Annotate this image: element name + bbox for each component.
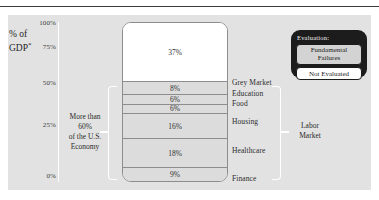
category-label-3: Housing — [232, 117, 258, 126]
labor-market-label: Labor Market — [288, 121, 332, 140]
category-label-column: Grey MarketEducationFoodHousingHealthcar… — [232, 22, 294, 182]
bar-segment-value-6: 9% — [170, 170, 180, 179]
legend-item-not-evaluated[interactable]: Not Evaluated — [296, 67, 362, 80]
legend-title: Evaluation: — [297, 34, 362, 41]
left-annotation-line2: of the U.S. — [69, 132, 102, 141]
y-axis-line — [58, 22, 59, 182]
legend-item-fundamental-failures-line2: Failures — [318, 54, 341, 62]
bar-segment-0: 37% — [123, 23, 227, 81]
category-label-5: Finance — [232, 174, 256, 183]
legend-box: Evaluation: Fundamental Failures Not Eva… — [291, 30, 367, 78]
bar-segment-value-1: 8% — [170, 84, 180, 93]
category-label-4: Healthcare — [232, 146, 265, 155]
bar-segment-value-0: 37% — [168, 48, 182, 57]
bar-segment-1: 8% — [123, 81, 227, 94]
labor-market-bracket — [272, 86, 281, 180]
category-label-0: Grey Market — [232, 78, 272, 87]
left-annotation-text: More than 60% of the U.S. Economy — [62, 112, 108, 152]
y-axis-tick-2: 50% — [43, 79, 56, 87]
y-axis-tick-0: 100% — [39, 19, 56, 27]
labor-market-line2: Market — [299, 131, 321, 140]
legend-item-fundamental-failures[interactable]: Fundamental Failures — [296, 44, 362, 65]
stacked-bar: 37%8%6%6%16%18%9% — [122, 22, 228, 182]
y-axis-ticks: 100%75%50%25%0% — [0, 0, 56, 200]
bar-segment-5: 18% — [123, 138, 227, 166]
category-label-2: Food — [232, 99, 248, 108]
bar-segment-value-4: 16% — [168, 122, 182, 131]
left-bracket — [108, 86, 117, 180]
bar-segment-value-3: 6% — [170, 104, 180, 113]
bar-segment-3: 6% — [123, 104, 227, 113]
bar-segment-6: 9% — [123, 167, 227, 181]
bar-segment-2: 6% — [123, 94, 227, 103]
bar-segment-value-5: 18% — [168, 149, 182, 158]
bar-segment-4: 16% — [123, 113, 227, 138]
legend-item-fundamental-failures-line1: Fundamental — [311, 46, 348, 54]
y-axis-tick-3: 25% — [43, 121, 56, 129]
left-annotation-line1: More than 60% — [69, 112, 100, 131]
category-label-1: Education — [232, 89, 263, 98]
left-annotation-line3: Economy — [71, 142, 100, 151]
y-axis-tick-4: 0% — [46, 172, 56, 180]
labor-market-line1: Labor — [301, 121, 319, 130]
bar-segment-value-2: 6% — [170, 95, 180, 104]
y-axis-tick-1: 75% — [43, 43, 56, 51]
header-rule — [0, 6, 379, 7]
